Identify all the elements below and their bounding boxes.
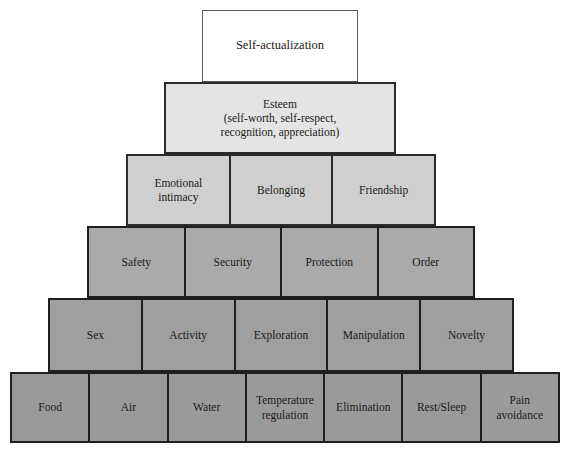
tier-cell-label: Security <box>214 255 252 269</box>
tier-cell-label: Pain <box>497 393 544 407</box>
tier-cell-label: Emotional <box>154 176 202 190</box>
tier-cell-label-line2: intimacy <box>154 190 202 204</box>
tier-cell-esteem: Esteem (self-worth, self-respect, recogn… <box>164 82 396 154</box>
tier-cell-label-line2: regulation <box>256 408 314 422</box>
tier-cell-self-actualization: Self-actualization <box>202 10 358 82</box>
tier-cell-label: Air <box>121 400 136 414</box>
tier-cell-belonging: Belonging <box>229 154 334 226</box>
tier-cell-friendship: Friendship <box>331 154 436 226</box>
tier-cell-elimination: Elimination <box>323 372 403 443</box>
tier-cell-label: Novelty <box>448 328 485 342</box>
tier-cell-label: Protection <box>306 255 353 269</box>
tier-cell-label: Exploration <box>254 328 308 342</box>
tier-esteem: Esteem (self-worth, self-respect, recogn… <box>164 82 396 154</box>
tier-cell-water: Water <box>167 372 247 443</box>
tier-cell-protection: Protection <box>280 226 379 298</box>
tier-cell-label: Rest/Sleep <box>417 400 466 414</box>
tier-cell-label-line2: avoidance <box>497 408 544 422</box>
tier-self-actualization: Self-actualization <box>202 10 358 82</box>
tier-cell-label: Temperature <box>256 393 314 407</box>
tier-love-and-belonging: Emotional intimacy Belonging Friendship <box>126 154 434 226</box>
tier-cell-emotional-intimacy: Emotional intimacy <box>126 154 231 226</box>
tier-cell-security: Security <box>184 226 283 298</box>
tier-cell-air: Air <box>88 372 168 443</box>
tier-stimulation: Sex Activity Exploration Manipulation No… <box>48 298 512 372</box>
tier-cell-label: Belonging <box>257 183 305 197</box>
tier-cell-safety: Safety <box>87 226 186 298</box>
tier-cell-exploration: Exploration <box>234 298 329 372</box>
needs-pyramid-diagram: Self-actualization Esteem (self-worth, s… <box>0 0 568 460</box>
tier-cell-label: Water <box>193 400 220 414</box>
tier-cell-temperature-regulation: Temperature regulation <box>245 372 325 443</box>
tier-cell-rest-sleep: Rest/Sleep <box>401 372 481 443</box>
tier-cell-pain-avoidance: Pain avoidance <box>480 372 560 443</box>
tier-cell-label: Esteem <box>263 97 297 111</box>
tier-cell-label: Activity <box>169 328 207 342</box>
tier-cell-food: Food <box>10 372 90 443</box>
tier-cell-label: Food <box>38 400 62 414</box>
tier-cell-label-line2: (self-worth, self-respect, <box>224 111 337 125</box>
tier-cell-label-line3: recognition, appreciation) <box>221 125 340 139</box>
tier-cell-order: Order <box>377 226 476 298</box>
tier-cell-label: Self-actualization <box>236 38 324 53</box>
tier-physiological: Food Air Water Temperature regulation El… <box>10 372 558 443</box>
tier-cell-sex: Sex <box>48 298 143 372</box>
tier-cell-label: Order <box>412 255 439 269</box>
tier-cell-manipulation: Manipulation <box>326 298 421 372</box>
tier-cell-label: Elimination <box>336 400 390 414</box>
tier-cell-label: Friendship <box>359 183 408 197</box>
tier-safety: Safety Security Protection Order <box>87 226 473 298</box>
tier-cell-label: Safety <box>122 255 151 269</box>
tier-cell-novelty: Novelty <box>419 298 514 372</box>
tier-cell-label: Manipulation <box>343 328 405 342</box>
tier-cell-activity: Activity <box>141 298 236 372</box>
tier-cell-label: Sex <box>87 328 104 342</box>
